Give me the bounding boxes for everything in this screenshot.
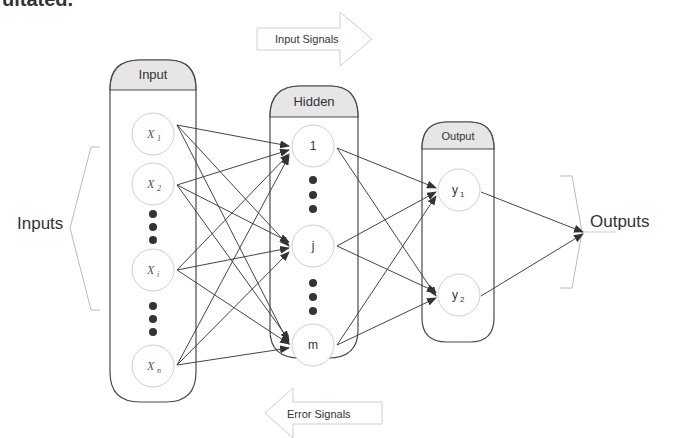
error-signals-arrow: Error Signals xyxy=(265,388,382,438)
svg-text:n: n xyxy=(157,366,161,375)
input-node-xi: X i xyxy=(132,249,174,291)
svg-text:i: i xyxy=(157,270,159,279)
svg-text:y: y xyxy=(452,183,458,197)
cut-off-text: ultated. xyxy=(2,0,73,10)
output-layer-title: Output xyxy=(441,130,474,142)
hidden-ellipsis-2 xyxy=(309,279,317,315)
hidden-node-1: 1 xyxy=(292,125,334,167)
outputs-label: Outputs xyxy=(590,212,650,231)
input-signals-arrow: Input Signals xyxy=(257,12,372,66)
svg-text:1: 1 xyxy=(157,134,161,143)
hidden-node-m: m xyxy=(292,324,334,366)
inputs-label: Inputs xyxy=(17,214,63,233)
output-node-y1: y 1 xyxy=(438,169,480,211)
outputs-brace: Outputs xyxy=(560,176,650,288)
input-layer-title: Input xyxy=(139,67,168,82)
svg-text:X: X xyxy=(146,177,155,191)
output-edges xyxy=(481,192,583,296)
svg-text:2: 2 xyxy=(460,295,465,304)
neural-network-diagram: ultated. Input Signals Error Signals Inp… xyxy=(0,0,676,438)
input-node-x2: X 2 xyxy=(132,163,174,205)
svg-text:X: X xyxy=(146,263,155,277)
input-node-xn: X n xyxy=(132,345,174,387)
svg-text:1: 1 xyxy=(460,190,465,199)
input-ellipsis-1 xyxy=(149,210,157,244)
error-signals-label: Error Signals xyxy=(287,408,351,420)
output-node-y2: y 2 xyxy=(438,274,480,316)
svg-text:X: X xyxy=(146,127,155,141)
inputs-brace: Inputs xyxy=(17,147,100,310)
svg-text:j: j xyxy=(311,239,315,253)
svg-text:2: 2 xyxy=(157,184,161,193)
svg-text:y: y xyxy=(452,288,458,302)
input-ellipsis-2 xyxy=(149,302,157,336)
input-signals-label: Input Signals xyxy=(275,33,339,45)
hidden-nodes: 1 j m xyxy=(292,125,334,366)
hidden-ellipsis-1 xyxy=(309,176,317,213)
hidden-node-j: j xyxy=(292,225,334,267)
hidden-layer-title: Hidden xyxy=(293,94,334,109)
input-node-x1: X 1 xyxy=(132,113,174,155)
svg-text:1: 1 xyxy=(310,139,317,153)
svg-text:X: X xyxy=(146,359,155,373)
svg-text:m: m xyxy=(308,338,318,352)
